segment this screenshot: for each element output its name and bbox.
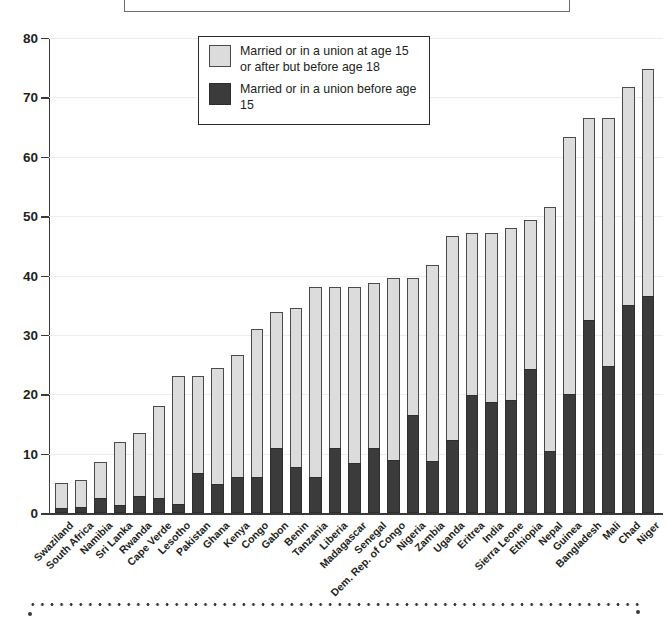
- bar-segment-before-age-15: [231, 477, 244, 513]
- bar-eritrea: [466, 233, 479, 513]
- legend-label-dark: Married or in a union before age 15: [240, 82, 421, 113]
- y-axis-tick-mark: [41, 157, 49, 158]
- bar-segment-before-age-15: [348, 463, 361, 513]
- y-axis-tick-label: 10: [8, 446, 38, 461]
- bar-nigeria: [407, 278, 420, 513]
- bar-segment-before-age-15: [172, 504, 185, 513]
- bar-liberia: [329, 287, 342, 513]
- bar-segment-before-age-15: [602, 366, 615, 513]
- bar-segment-before-age-15: [446, 440, 459, 513]
- bar-nepal: [544, 207, 557, 513]
- bar-segment-before-age-15: [544, 451, 557, 513]
- bar-segment-before-age-15: [466, 395, 479, 513]
- bar-dem-rep-of-congo: [387, 278, 400, 513]
- bar-segment-before-age-15: [153, 498, 166, 513]
- y-axis-tick-label: 40: [8, 268, 38, 283]
- bar-segment-before-age-15: [94, 498, 107, 513]
- y-axis-tick-mark: [41, 513, 49, 514]
- y-axis-tick-mark: [41, 216, 49, 217]
- bar-congo: [251, 329, 264, 513]
- bar-namibia: [94, 462, 107, 513]
- bar-segment-before-age-15: [426, 461, 439, 513]
- legend-swatch-dark-icon: [209, 83, 231, 105]
- x-axis-labels: SwazilandSouth AfricaNamibiaSri LankaRwa…: [0, 513, 669, 613]
- bar-cape-verde: [153, 406, 166, 513]
- bar-segment-before-age-15: [368, 448, 381, 513]
- y-axis-tick-label: 60: [8, 149, 38, 164]
- y-axis-tick-label: 20: [8, 387, 38, 402]
- bar-lesotho: [172, 376, 185, 513]
- bar-segment-before-age-15: [622, 305, 635, 513]
- bar-ethiopia: [524, 220, 537, 513]
- bar-segment-before-age-15: [407, 415, 420, 513]
- legend-item-light: Married or in a union at age 15 or after…: [209, 44, 421, 75]
- bar-mali: [602, 118, 615, 513]
- divider-dot-left: [28, 612, 32, 616]
- bar-chad: [622, 87, 635, 513]
- bar-kenya: [231, 355, 244, 513]
- bar-madagascar: [348, 287, 361, 513]
- bar-segment-before-age-15: [114, 505, 127, 513]
- y-axis-tick-mark: [41, 394, 49, 395]
- bar-segment-before-age-15: [192, 473, 205, 513]
- bar-swaziland: [55, 483, 68, 513]
- bar-rwanda: [133, 433, 146, 513]
- bar-segment-before-age-15: [505, 400, 518, 513]
- divider-dot-right: [636, 610, 640, 614]
- y-axis-tick-mark: [41, 454, 49, 455]
- bar-segment-before-age-15: [251, 477, 264, 513]
- bar-niger: [642, 69, 655, 513]
- y-axis-tick-label: 30: [8, 327, 38, 342]
- bar-ghana: [211, 368, 224, 513]
- y-axis-tick-label: 80: [8, 31, 38, 46]
- bar-segment-before-age-15: [270, 448, 283, 513]
- y-axis-tick-mark: [41, 97, 49, 98]
- y-axis-tick-mark: [41, 335, 49, 336]
- bar-segment-before-age-15: [563, 394, 576, 513]
- legend-item-dark: Married or in a union before age 15: [209, 82, 421, 113]
- bar-segment-before-age-15: [133, 496, 146, 513]
- bar-segment-before-age-15: [642, 296, 655, 513]
- bar-india: [485, 233, 498, 513]
- y-axis-tick-mark: [41, 276, 49, 277]
- chart-legend: Married or in a union at age 15 or after…: [198, 36, 430, 125]
- bar-segment-before-age-15: [290, 467, 303, 513]
- bar-sri-lanka: [114, 442, 127, 513]
- bar-tanzania: [309, 287, 322, 513]
- bar-segment-before-age-15: [387, 460, 400, 513]
- bottom-dotted-divider: [28, 602, 641, 607]
- bar-senegal: [368, 283, 381, 513]
- bar-south-africa: [75, 480, 88, 513]
- legend-swatch-light-icon: [209, 45, 231, 67]
- bar-segment-before-age-15: [309, 477, 322, 513]
- bar-guinea: [563, 137, 576, 513]
- bar-segment-before-age-15: [485, 402, 498, 513]
- bar-bangladesh: [583, 118, 596, 513]
- legend-label-light: Married or in a union at age 15 or after…: [240, 44, 421, 75]
- bar-pakistan: [192, 376, 205, 513]
- bar-zambia: [426, 265, 439, 513]
- bar-segment-before-age-15: [211, 484, 224, 513]
- bar-uganda: [446, 236, 459, 513]
- bar-gabon: [270, 312, 283, 513]
- y-axis-tick-mark: [41, 38, 49, 39]
- top-caption-box: [124, 0, 570, 12]
- bar-segment-before-age-15: [329, 448, 342, 513]
- y-axis-tick-label: 70: [8, 90, 38, 105]
- y-axis-tick-label: 50: [8, 209, 38, 224]
- bar-segment-before-age-15: [524, 369, 537, 513]
- bar-segment-before-age-15: [583, 320, 596, 513]
- bar-sierra-leone: [505, 228, 518, 513]
- bar-benin: [290, 308, 303, 513]
